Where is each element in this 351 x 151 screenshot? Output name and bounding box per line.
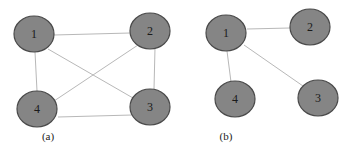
edge-1-2 — [54, 33, 130, 35]
caption-b: (b) — [220, 130, 233, 143]
caption-a: (a) — [42, 130, 55, 143]
node-label: 3 — [315, 91, 321, 105]
edge-2-4 — [54, 45, 138, 101]
node-label: 1 — [223, 26, 229, 40]
edge-3-4 — [58, 115, 132, 117]
node-label: 3 — [147, 100, 153, 114]
figure-a: 1 2 3 4 (a) — [14, 13, 170, 143]
node-label: 4 — [232, 92, 238, 106]
node-label: 1 — [31, 27, 37, 41]
edge-2-3 — [154, 48, 155, 89]
edge-1-2 — [247, 28, 290, 29]
figure-b: 1 2 3 4 (b) — [206, 9, 338, 143]
graph-diagram: 1 2 3 4 (a) 1 2 3 4 (b) — [0, 0, 351, 151]
node-label: 2 — [307, 20, 313, 34]
node-label: 2 — [147, 24, 153, 38]
node-label: 4 — [34, 102, 40, 116]
edge-1-3 — [244, 45, 303, 86]
edge-1-4 — [35, 52, 37, 91]
edge-1-4 — [227, 51, 231, 82]
